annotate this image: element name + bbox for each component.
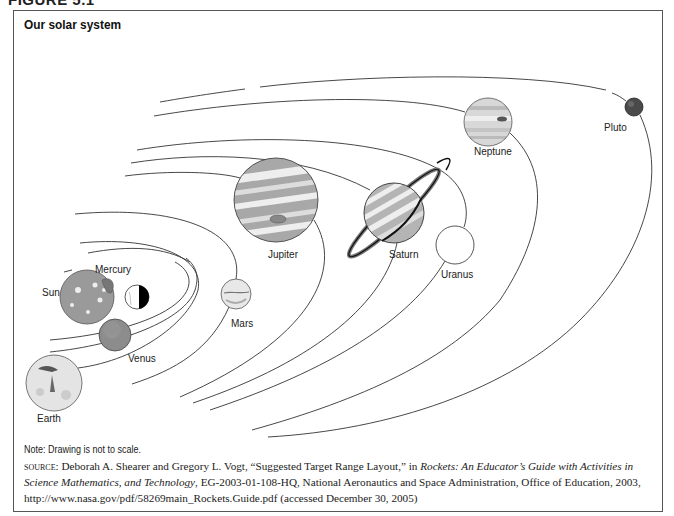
source-prefix: source: — [24, 460, 59, 472]
orbit-pluto — [160, 89, 245, 102]
sun-icon — [60, 270, 114, 324]
orbit-venus-top — [88, 248, 190, 262]
label-mercury: Mercury — [95, 264, 131, 275]
jupiter-icon — [226, 158, 329, 242]
venus-icon — [99, 319, 131, 351]
orbit-pluto-3 — [268, 93, 652, 437]
mercury-icon — [125, 284, 150, 310]
source-citation: source: Deborah A. Shearer and Gregory L… — [24, 458, 654, 506]
mars-icon — [221, 279, 251, 309]
planet-labels: Sun Mercury Venus Earth Mars Jupiter Sat… — [37, 122, 627, 424]
label-saturn: Saturn — [389, 249, 418, 260]
label-uranus: Uranus — [441, 269, 473, 280]
source-text-1: Deborah A. Shearer and Gregory L. Vogt, … — [59, 460, 421, 472]
uranus-icon — [436, 226, 474, 264]
orbit-pluto-2 — [260, 77, 606, 90]
label-venus: Venus — [128, 353, 156, 364]
neptune-icon — [462, 98, 514, 146]
scale-note: Note: Drawing is not to scale. — [24, 444, 141, 455]
label-sun: Sun — [42, 287, 60, 298]
label-neptune: Neptune — [474, 146, 512, 157]
label-jupiter: Jupiter — [268, 249, 299, 260]
label-mars: Mars — [231, 318, 253, 329]
mercury-dash — [64, 270, 72, 272]
earth-icon — [26, 355, 82, 411]
solar-system-diagram: Sun Mercury Venus Earth Mars Jupiter Sat… — [0, 0, 674, 516]
label-pluto: Pluto — [604, 122, 627, 133]
label-earth: Earth — [37, 413, 61, 424]
pluto-icon — [625, 98, 643, 116]
